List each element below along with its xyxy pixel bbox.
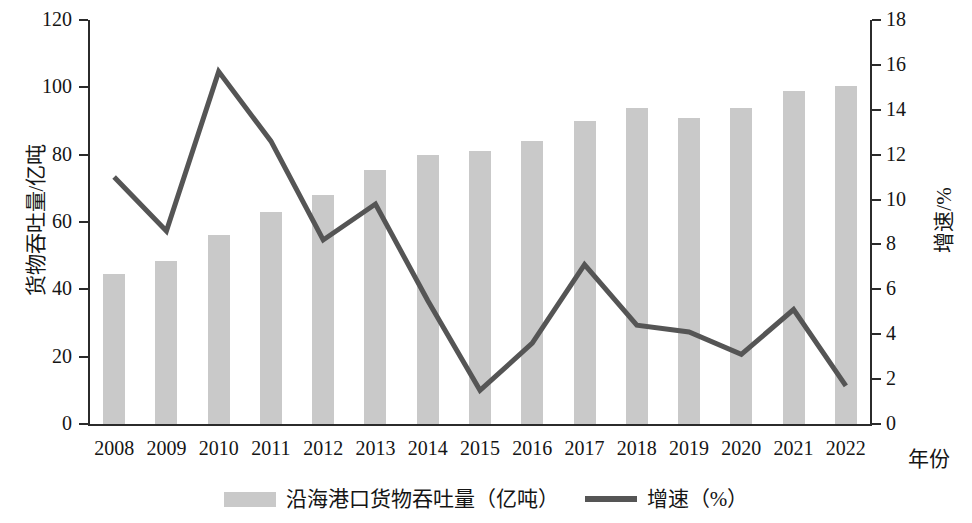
y-axis-right-title: 增速/% xyxy=(927,90,957,350)
y-axis-left-tick xyxy=(79,221,88,223)
y-axis-right-tick xyxy=(872,423,881,425)
x-axis-tick-label-2013: 2013 xyxy=(349,436,401,460)
x-axis-title: 年份 xyxy=(908,442,950,472)
x-axis-tick-label-2015: 2015 xyxy=(454,436,506,460)
x-axis-tick-label-2021: 2021 xyxy=(767,436,819,460)
x-axis-tick-label-2019: 2019 xyxy=(663,436,715,460)
y-axis-right-tick-label: 16 xyxy=(886,54,946,74)
legend-bar-swatch-icon xyxy=(224,492,276,507)
legend-label-throughput: 沿海港口货物吞吐量（亿吨） xyxy=(286,488,559,510)
y-axis-right-tick xyxy=(872,109,881,111)
x-axis-line xyxy=(88,424,872,426)
y-axis-right-tick xyxy=(872,19,881,21)
growth-rate-line xyxy=(88,20,872,424)
y-axis-left-title: 货物吞吐量/亿吨 xyxy=(19,90,49,350)
x-axis-tick-label-2014: 2014 xyxy=(402,436,454,460)
y-axis-right-tick-label: 2 xyxy=(886,368,946,388)
y-axis-right-tick xyxy=(872,199,881,201)
chart-legend: 沿海港口货物吞吐量（亿吨） 增速（%） xyxy=(0,488,972,510)
y-axis-left-tick xyxy=(79,288,88,290)
x-axis-tick-label-2010: 2010 xyxy=(193,436,245,460)
y-axis-left-tick xyxy=(79,19,88,21)
line-series-layer xyxy=(88,20,872,424)
legend-label-growth-rate: 增速（%） xyxy=(647,488,749,510)
x-axis-tick-label-2017: 2017 xyxy=(558,436,610,460)
y-axis-right-tick-label: 0 xyxy=(886,413,946,433)
y-axis-right-tick xyxy=(872,333,881,335)
x-axis-tick-label-2018: 2018 xyxy=(611,436,663,460)
x-axis-tick-label-2016: 2016 xyxy=(506,436,558,460)
y-axis-right-tick xyxy=(872,378,881,380)
x-axis-tick-labels: 2008200920102011201220132014201520162017… xyxy=(88,436,872,466)
x-axis-tick-label-2020: 2020 xyxy=(715,436,767,460)
x-axis-tick-label-2008: 2008 xyxy=(88,436,140,460)
legend-item-throughput: 沿海港口货物吞吐量（亿吨） xyxy=(224,488,559,510)
legend-item-growth-rate: 增速（%） xyxy=(585,488,749,510)
y-axis-left-tick-label: 0 xyxy=(0,413,72,433)
legend-line-swatch-icon xyxy=(585,496,637,502)
y-axis-left-tick xyxy=(79,356,88,358)
y-axis-left-tick-label: 120 xyxy=(0,9,72,29)
x-axis-tick-label-2011: 2011 xyxy=(245,436,297,460)
x-axis-tick-label-2012: 2012 xyxy=(297,436,349,460)
y-axis-left-tick xyxy=(79,86,88,88)
x-axis-tick-label-2022: 2022 xyxy=(820,436,872,460)
y-axis-right-tick xyxy=(872,288,881,290)
chart-container: 020406080100120 024681012141618 货物吞吐量/亿吨… xyxy=(0,0,972,523)
y-axis-right-tick-label: 18 xyxy=(886,9,946,29)
y-axis-right-tick xyxy=(872,64,881,66)
y-axis-left-tick xyxy=(79,154,88,156)
x-axis-tick-label-2009: 2009 xyxy=(140,436,192,460)
y-axis-right-tick xyxy=(872,243,881,245)
y-axis-left-tick xyxy=(79,423,88,425)
y-axis-right-tick xyxy=(872,154,881,156)
